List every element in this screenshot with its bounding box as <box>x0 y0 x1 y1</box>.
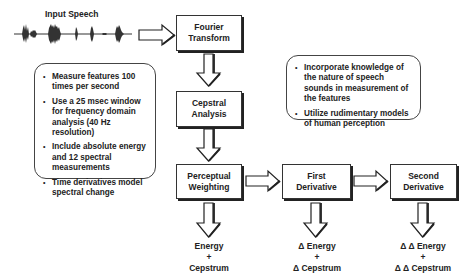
block-label: First <box>307 171 325 181</box>
cepstral-analysis-block: CepstralAnalysis <box>176 91 242 127</box>
block-label: Cepstral <box>192 98 226 108</box>
first-derivative-block: FirstDerivative <box>282 164 351 199</box>
block-label: Perceptual <box>187 171 230 181</box>
output-line: Δ Cepstrum <box>272 262 362 275</box>
note-bullet: Use a 25 msec window for frequency domai… <box>41 97 149 139</box>
note-bullet: Include absolute energy and 12 spectral … <box>41 142 149 173</box>
output-delta-energy-cepstrum: Δ Energy + Δ Cepstrum <box>272 240 362 275</box>
note-bullet: Utilize rudimentary models of human perc… <box>293 109 414 130</box>
speech-waveform-icon <box>14 22 132 46</box>
second-derivative-block: SecondDerivative <box>390 164 457 199</box>
speech-knowledge-note: Incorporate knowledge of the nature of s… <box>286 55 421 120</box>
feature-measurement-note: Measure features 100 times per second Us… <box>34 63 156 179</box>
arrow-down-icon <box>196 128 222 162</box>
block-label: Analysis <box>192 109 227 119</box>
arrow-down-icon <box>196 202 222 238</box>
block-label: Second <box>408 171 439 181</box>
arrow-down-icon <box>303 202 329 238</box>
block-label: Derivative <box>403 182 444 192</box>
output-plus: + <box>375 253 467 262</box>
output-plus: + <box>272 253 362 262</box>
arrow-right-icon <box>245 170 281 192</box>
block-label: Fourier <box>194 22 223 32</box>
input-speech-title: Input Speech <box>45 9 98 19</box>
output-energy-cepstrum: Energy + Cepstrum <box>168 240 250 275</box>
note-bullet: Incorporate knowledge of the nature of s… <box>293 63 414 105</box>
note-bullet: Time derivatives model spectral change <box>41 178 149 199</box>
arrow-down-icon <box>196 53 222 87</box>
perceptual-weighting-block: PerceptualWeighting <box>176 164 242 199</box>
arrow-right-icon <box>138 24 176 46</box>
arrow-right-icon <box>353 170 389 192</box>
arrow-down-icon <box>410 202 436 238</box>
output-delta-delta-energy-cepstrum: Δ Δ Energy + Δ Δ Cepstrum <box>375 240 467 275</box>
output-plus: + <box>168 253 250 262</box>
block-label: Derivative <box>296 182 337 192</box>
block-label: Weighting <box>189 182 230 192</box>
note-bullet: Measure features 100 times per second <box>41 72 149 93</box>
fourier-transform-block: FourierTransform <box>176 15 242 51</box>
output-line: Cepstrum <box>168 262 250 275</box>
output-line: Δ Δ Cepstrum <box>375 262 467 275</box>
block-label: Transform <box>188 33 230 43</box>
